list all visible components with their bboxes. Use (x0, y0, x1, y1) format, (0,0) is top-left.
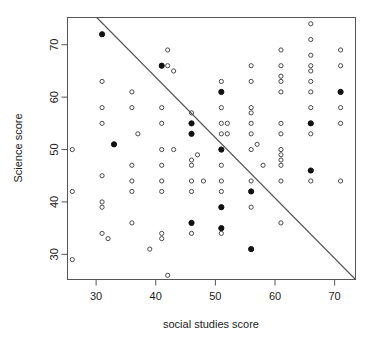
data-point-open (201, 179, 205, 183)
data-point-open (160, 189, 164, 193)
data-point-open (100, 231, 104, 235)
data-point-open (279, 121, 283, 125)
data-point-open (136, 132, 140, 136)
data-point-open (130, 163, 134, 167)
data-point-open (279, 179, 283, 183)
data-point-filled (219, 205, 224, 210)
data-point-open (219, 231, 223, 235)
y-tick-label: 40 (48, 196, 60, 208)
data-point-open (249, 111, 253, 115)
scatter-plot-figure: 3040506070 3040506070 social studies sco… (0, 0, 377, 340)
data-point-open (338, 179, 342, 183)
data-point-open (166, 64, 170, 68)
data-point-open (189, 189, 193, 193)
x-tick-label: 50 (209, 290, 221, 302)
data-point-filled (189, 121, 194, 126)
data-point-open (219, 163, 223, 167)
data-point-open (309, 132, 313, 136)
data-point-open (166, 48, 170, 52)
data-point-open (70, 189, 74, 193)
data-point-open (279, 221, 283, 225)
data-point-open (309, 79, 313, 83)
data-point-open (225, 132, 229, 136)
data-point-open (279, 163, 283, 167)
data-point-filled (249, 247, 254, 252)
y-tick-label: 70 (48, 39, 60, 51)
x-tick-label: 70 (329, 290, 341, 302)
data-point-open (249, 121, 253, 125)
data-point-open (189, 163, 193, 167)
y-tick-label: 60 (48, 91, 60, 103)
data-point-open (249, 106, 253, 110)
data-point-open (130, 90, 134, 94)
data-point-open (225, 121, 229, 125)
data-point-open (219, 79, 223, 83)
data-point-open (279, 147, 283, 151)
data-point-open (148, 247, 152, 251)
data-point-open (279, 158, 283, 162)
data-point-open (255, 142, 259, 146)
data-point-open (249, 79, 253, 83)
data-point-open (279, 79, 283, 83)
data-point-open (338, 121, 342, 125)
data-point-open (189, 158, 193, 162)
data-point-filled (189, 131, 194, 136)
y-tick-label: 30 (48, 248, 60, 260)
data-point-open (160, 231, 164, 235)
data-point-open (249, 179, 253, 183)
data-point-open (160, 147, 164, 151)
data-point-open (166, 273, 170, 277)
data-point-open (100, 121, 104, 125)
data-point-open (160, 106, 164, 110)
data-point-open (309, 64, 313, 68)
data-point-open (100, 200, 104, 204)
data-point-open (309, 37, 313, 41)
data-point-filled (111, 142, 116, 147)
data-point-filled (189, 220, 194, 225)
data-point-open (279, 74, 283, 78)
data-point-filled (159, 63, 164, 68)
data-point-open (100, 79, 104, 83)
data-point-open (219, 189, 223, 193)
data-point-open (130, 221, 134, 225)
data-point-filled (249, 189, 254, 194)
data-point-filled (338, 89, 343, 94)
data-point-open (338, 48, 342, 52)
data-point-open (309, 106, 313, 110)
data-point-open (219, 179, 223, 183)
data-point-open (309, 90, 313, 94)
data-point-open (279, 48, 283, 52)
data-point-open (160, 237, 164, 241)
data-point-open (309, 53, 313, 57)
data-point-open (130, 106, 134, 110)
data-point-open (130, 179, 134, 183)
data-point-open (130, 189, 134, 193)
y-axis-label: Science score (12, 113, 24, 182)
y-axis-ticks: 3040506070 (48, 39, 67, 261)
x-tick-label: 30 (90, 290, 102, 302)
data-point-open (249, 64, 253, 68)
data-point-filled (308, 168, 313, 173)
y-tick-label: 50 (48, 143, 60, 155)
data-point-filled (219, 89, 224, 94)
data-point-open (219, 121, 223, 125)
data-point-open (70, 147, 74, 151)
data-point-filled (219, 147, 224, 152)
data-point-open (279, 90, 283, 94)
data-point-open (70, 257, 74, 261)
data-point-open (100, 106, 104, 110)
data-point-open (219, 106, 223, 110)
filled-points-series (99, 32, 343, 252)
data-point-open (172, 147, 176, 151)
data-point-open (249, 147, 253, 151)
open-points-series (70, 22, 343, 278)
data-point-open (172, 69, 176, 73)
data-point-open (279, 64, 283, 68)
data-point-open (309, 69, 313, 73)
data-point-open (279, 153, 283, 157)
data-point-open (261, 163, 265, 167)
data-point-open (219, 132, 223, 136)
data-point-open (189, 231, 193, 235)
reference-line (97, 18, 356, 280)
data-point-filled (308, 121, 313, 126)
